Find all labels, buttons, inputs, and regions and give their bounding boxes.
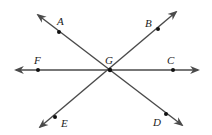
point-G	[108, 68, 112, 72]
label-G: G	[105, 54, 113, 66]
label-B: B	[145, 17, 152, 29]
label-D: D	[152, 116, 161, 128]
point-E	[53, 115, 57, 119]
geometry-diagram: G A B C D E F	[0, 0, 212, 135]
point-A	[57, 30, 61, 34]
point-D	[164, 112, 168, 116]
point-B	[156, 27, 160, 31]
label-E: E	[60, 117, 68, 129]
point-C	[171, 68, 175, 72]
label-C: C	[167, 54, 175, 66]
label-A: A	[56, 15, 64, 27]
point-F	[36, 68, 40, 72]
label-F: F	[33, 54, 41, 66]
